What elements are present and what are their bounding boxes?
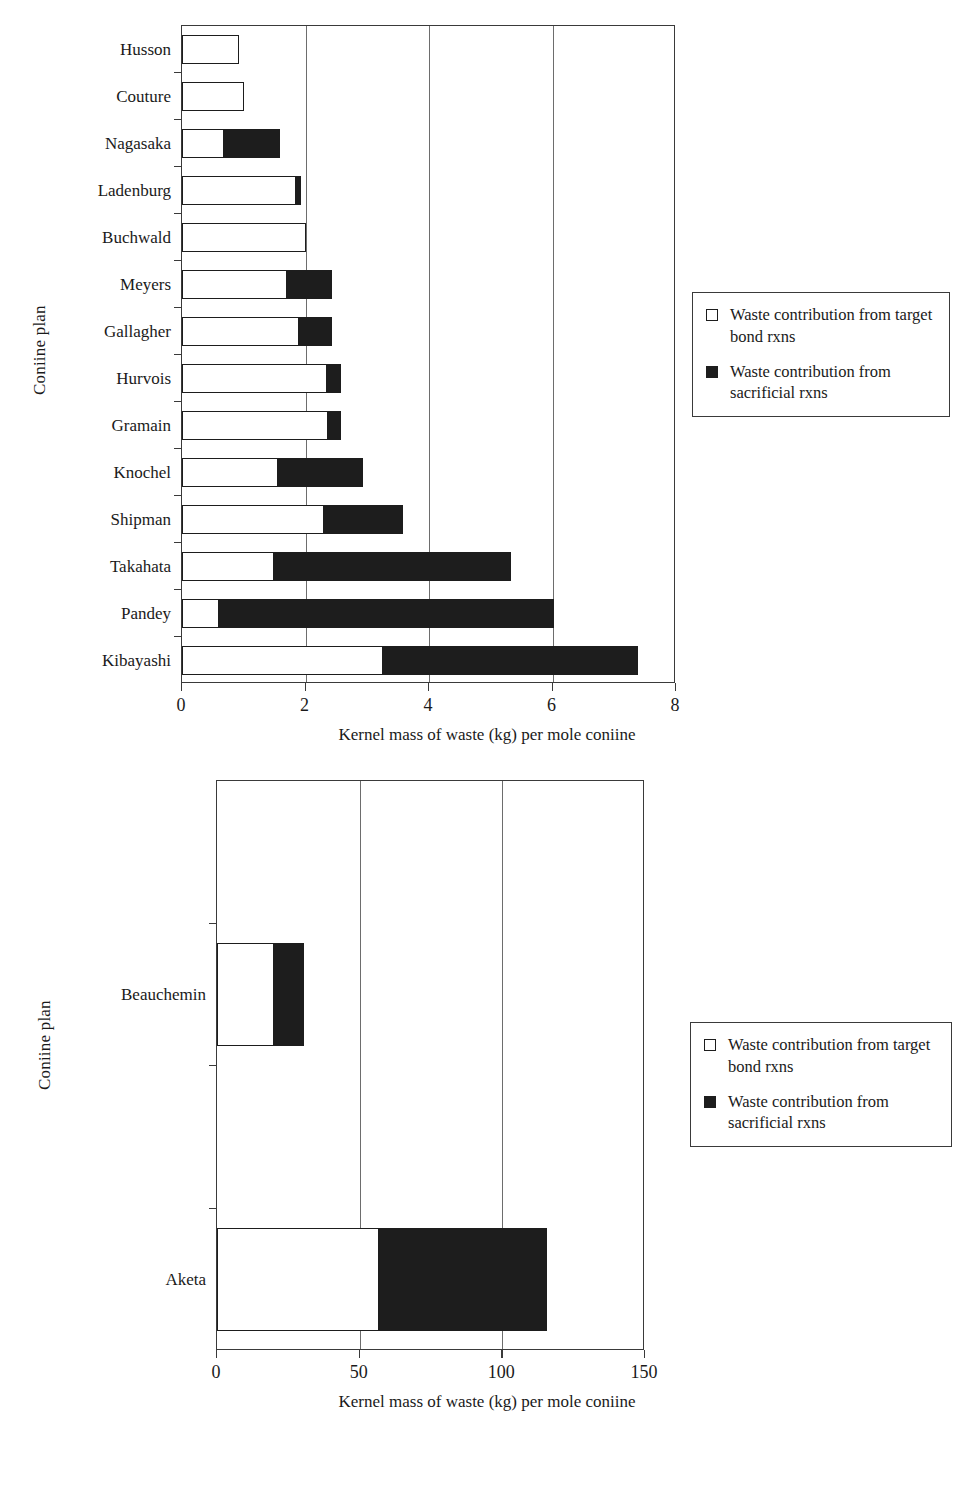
bar-row bbox=[182, 590, 674, 637]
bar-segment-sacrificial bbox=[286, 270, 332, 298]
x-axis-tick bbox=[359, 1350, 360, 1358]
bar-row bbox=[182, 355, 674, 402]
y-axis-tick bbox=[174, 307, 181, 308]
top-chart-y-axis-title: Coniine plan bbox=[30, 305, 50, 395]
bar-row bbox=[182, 496, 674, 543]
y-axis-tick bbox=[209, 923, 216, 924]
bar-row bbox=[182, 308, 674, 355]
x-axis-tick bbox=[181, 683, 182, 691]
bottom-chart-y-axis-title: Coniine plan bbox=[35, 1000, 55, 1090]
bar-segment-target-bond bbox=[182, 129, 224, 157]
bar-segment-target-bond bbox=[182, 317, 299, 345]
y-axis-tick bbox=[174, 166, 181, 167]
category-label: Kibayashi bbox=[102, 651, 171, 668]
bar-row bbox=[182, 261, 674, 308]
bar-row bbox=[217, 1209, 643, 1352]
x-axis-tick bbox=[305, 683, 306, 691]
bar-segment-target-bond bbox=[182, 505, 324, 533]
legend-label: Waste contribution from target bond rxns bbox=[730, 304, 936, 348]
y-axis-tick bbox=[174, 589, 181, 590]
x-axis-tick-label: 50 bbox=[350, 1362, 368, 1383]
stacked-bar bbox=[182, 646, 638, 674]
legend-swatch-sacrificial-icon bbox=[704, 1096, 716, 1108]
stacked-bar bbox=[182, 364, 341, 392]
bar-row bbox=[182, 73, 674, 120]
legend-item: Waste contribution from target bond rxns bbox=[706, 304, 936, 348]
y-axis-tick bbox=[174, 448, 181, 449]
category-label: Gramain bbox=[112, 416, 171, 433]
legend-label: Waste contribution from sacrificial rxns bbox=[728, 1091, 938, 1135]
bar-segment-target-bond bbox=[217, 943, 274, 1046]
bar-segment-target-bond bbox=[182, 411, 328, 439]
y-axis-tick bbox=[174, 542, 181, 543]
legend-item: Waste contribution from sacrificial rxns bbox=[704, 1091, 938, 1135]
bottom-chart-figure: Coniine plan BeaucheminAketa 050100150 K… bbox=[0, 760, 974, 1487]
x-axis-tick bbox=[675, 683, 676, 691]
bar-row bbox=[182, 120, 674, 167]
bar-segment-target-bond bbox=[182, 646, 383, 674]
category-label: Hurvois bbox=[116, 369, 171, 386]
bar-row bbox=[182, 402, 674, 449]
x-axis-tick bbox=[644, 1350, 645, 1358]
y-axis-tick bbox=[174, 401, 181, 402]
bar-segment-sacrificial bbox=[323, 505, 403, 533]
y-axis-tick bbox=[174, 213, 181, 214]
bar-segment-sacrificial bbox=[277, 458, 363, 486]
y-axis-tick bbox=[209, 1208, 216, 1209]
bar-row bbox=[217, 924, 643, 1067]
y-axis-tick bbox=[174, 636, 181, 637]
x-axis-tick bbox=[216, 1350, 217, 1358]
top-chart-x-axis-title: Kernel mass of waste (kg) per mole conii… bbox=[0, 725, 974, 745]
bottom-chart-plot-area bbox=[216, 780, 644, 1350]
stacked-bar bbox=[182, 317, 332, 345]
bottom-chart-legend: Waste contribution from target bond rxns… bbox=[690, 1022, 952, 1147]
legend-swatch-target-bond-icon bbox=[706, 309, 718, 321]
bar-segment-target-bond bbox=[182, 223, 306, 251]
bar-segment-sacrificial bbox=[273, 943, 304, 1046]
bar-segment-sacrificial bbox=[295, 176, 301, 204]
category-label: Husson bbox=[120, 40, 171, 57]
legend-item: Waste contribution from sacrificial rxns bbox=[706, 361, 936, 405]
legend-swatch-sacrificial-icon bbox=[706, 366, 718, 378]
bar-row bbox=[182, 26, 674, 73]
category-label: Shipman bbox=[111, 510, 171, 527]
y-axis-tick bbox=[174, 495, 181, 496]
bar-row bbox=[182, 214, 674, 261]
top-chart-figure: Coniine plan HussonCoutureNagasakaLadenb… bbox=[0, 0, 974, 760]
bar-row bbox=[182, 449, 674, 496]
bar-segment-sacrificial bbox=[223, 129, 280, 157]
x-axis-tick bbox=[501, 1350, 502, 1358]
x-axis-tick-label: 0 bbox=[177, 695, 186, 716]
category-label: Gallagher bbox=[104, 322, 171, 339]
category-label: Pandey bbox=[121, 604, 171, 621]
category-label: Meyers bbox=[120, 275, 171, 292]
bar-segment-sacrificial bbox=[378, 1228, 546, 1331]
bar-segment-target-bond bbox=[182, 176, 296, 204]
category-label: Ladenburg bbox=[98, 181, 171, 198]
stacked-bar bbox=[182, 82, 244, 110]
bar-segment-sacrificial bbox=[327, 411, 341, 439]
stacked-bar bbox=[217, 943, 304, 1046]
bar-segment-target-bond bbox=[182, 599, 219, 627]
bar-segment-target-bond bbox=[182, 35, 239, 63]
stacked-bar bbox=[217, 1228, 547, 1331]
x-axis-tick-label: 4 bbox=[424, 695, 433, 716]
stacked-bar bbox=[182, 505, 403, 533]
bar-segment-target-bond bbox=[182, 82, 244, 110]
x-axis-tick-label: 100 bbox=[488, 1362, 515, 1383]
bar-segment-sacrificial bbox=[298, 317, 332, 345]
category-label: Buchwald bbox=[102, 228, 171, 245]
bar-segment-target-bond bbox=[182, 364, 327, 392]
legend-label: Waste contribution from sacrificial rxns bbox=[730, 361, 936, 405]
bar-row bbox=[217, 781, 643, 924]
x-axis-tick bbox=[552, 683, 553, 691]
stacked-bar bbox=[182, 176, 301, 204]
stacked-bar bbox=[182, 552, 511, 580]
x-axis-tick-label: 6 bbox=[547, 695, 556, 716]
y-axis-tick bbox=[174, 72, 181, 73]
bar-segment-sacrificial bbox=[273, 552, 511, 580]
bar-segment-target-bond bbox=[217, 1228, 380, 1331]
bar-row bbox=[182, 543, 674, 590]
x-axis-tick-label: 0 bbox=[212, 1362, 221, 1383]
stacked-bar bbox=[182, 35, 239, 63]
